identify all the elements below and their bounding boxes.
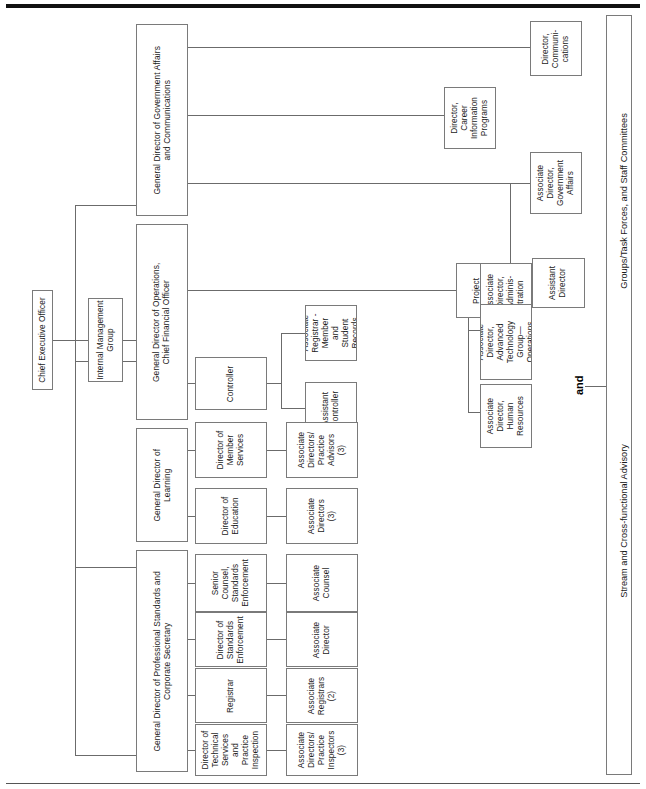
connector-education-to-assoc-directors <box>267 516 286 517</box>
box-associate-registrars-2[interactable]: Associate Registrars (2) <box>286 668 358 723</box>
box-label: General Director of Learning <box>152 449 173 522</box>
committee-connector-word: and <box>573 377 589 395</box>
connector-controller-to-assoc-registrar <box>281 333 305 334</box>
box-gd-learning[interactable]: General Director of Learning <box>136 428 188 542</box>
box-associate-registrar-member-student-records[interactable]: Associate Registrar - Member and Student… <box>305 305 357 361</box>
box-label: Associate Directors/ Practice Advisors (… <box>297 432 347 468</box>
connector-prof-standards-to-tech-services <box>188 750 195 751</box>
box-label: General Director of Government Affairs a… <box>152 46 173 194</box>
connector-senior-counsel-to-assoc-counsel <box>267 583 286 584</box>
connector-gov-affairs-to-communications <box>188 47 530 48</box>
box-label: General Director of Operations, Chief Fi… <box>152 262 173 381</box>
org-chart-page: Chief Executive Officer Internal Managem… <box>0 0 646 789</box>
box-gd-government-affairs[interactable]: General Director of Government Affairs a… <box>136 24 188 216</box>
connector-standards-enf-to-assoc-director <box>267 639 286 640</box>
connector-prof-standards-to-senior-counsel <box>188 583 195 584</box>
box-label: Associate Director, Government Affairs <box>536 160 576 206</box>
box-director-member-services[interactable]: Director of Member Services <box>195 422 267 478</box>
box-label: Senior Counsel, Standards Enforcement <box>211 559 251 607</box>
connector-spine-to-gd-gov-affairs <box>75 205 136 206</box>
box-chief-executive-officer[interactable]: Chief Executive Officer <box>32 290 53 390</box>
box-associate-director-advanced-technology-group-operations[interactable]: Associate Director, Advanced Technology … <box>480 304 532 380</box>
box-associate-directors-practice-advisors[interactable]: Associate Directors/ Practice Advisors (… <box>286 422 358 478</box>
box-label: Associate Directors/ Practice Inspectors… <box>297 731 347 770</box>
box-label: Registrar <box>226 678 236 712</box>
connector-prof-standards-to-standards-enf <box>188 639 195 640</box>
connector-project-director-to-assoc-hr <box>468 412 480 413</box>
box-label: Associate Counsel <box>312 565 332 601</box>
box-label: Director of Education <box>221 497 241 536</box>
box-label: Director, Career Information Programs <box>450 97 490 139</box>
connector-operations-to-controller <box>188 383 195 384</box>
box-director-standards-enforcement[interactable]: Director of Standards Enforcement <box>195 612 267 667</box>
box-label: Director of Technical Services and Pract… <box>201 731 261 770</box>
box-associate-directors-practice-inspectors[interactable]: Associate Directors/ Practice Inspectors… <box>286 724 358 776</box>
box-assistant-director[interactable]: Assistant Director <box>532 258 585 308</box>
box-label: Director, Communi- cations <box>541 29 571 68</box>
box-label: Associate Director, Human Resources <box>486 396 526 436</box>
connector-controller-bus <box>281 333 282 408</box>
connector-member-services-to-assoc-advisors <box>267 450 286 451</box>
committees-bar-left-label: Stream and Cross-functional Advisory <box>619 416 629 626</box>
box-label: Controller <box>226 365 236 402</box>
bottom-rule <box>6 783 640 784</box>
committees-bar-right-label: Groups/Task Forces, and Staff Committees <box>619 101 629 301</box>
connector-learning-to-member-services <box>188 450 195 451</box>
connector-controller-bus-stub <box>267 383 281 384</box>
box-internal-management-group[interactable]: Internal Management Group <box>88 298 123 382</box>
connector-project-director-to-assoc-atg <box>468 330 480 331</box>
box-associate-director-human-resources[interactable]: Associate Director, Human Resources <box>480 384 532 448</box>
box-label: Associate Director, Advanced Technology … <box>480 321 532 363</box>
box-associate-counsel[interactable]: Associate Counsel <box>286 554 358 612</box>
box-label: Internal Management Group <box>96 300 116 379</box>
connector-ceo-stub <box>53 340 75 341</box>
box-associate-directors-3[interactable]: Associate Directors (3) <box>286 488 358 544</box>
connector-controller-to-assistant-controller <box>281 408 305 409</box>
box-senior-counsel-standards-enforcement[interactable]: Senior Counsel, Standards Enforcement <box>195 554 267 612</box>
top-rule <box>6 4 640 8</box>
box-director-education[interactable]: Director of Education <box>195 488 267 544</box>
connector-spine-to-gd-learning <box>75 567 136 568</box>
connector-img-right <box>123 340 136 341</box>
connector-spine-to-gd-prof-standards <box>75 755 136 756</box>
box-associate-director-government-affairs[interactable]: Associate Director, Government Affairs <box>530 152 582 214</box>
box-label: Associate Director <box>312 621 332 657</box>
box-committees-bar[interactable]: Groups/Task Forces, and Staff Committees… <box>606 15 632 775</box>
connector-learning-to-education <box>188 516 195 517</box>
box-director-communications[interactable]: Director, Communi- cations <box>530 21 582 76</box>
box-label: Associate Registrar - Member and Student… <box>305 313 357 352</box>
box-label: Chief Executive Officer <box>38 297 48 382</box>
box-gd-operations[interactable]: General Director of Operations, Chief Fi… <box>136 224 188 420</box>
box-label: Director of Standards Enforcement <box>216 616 246 664</box>
connector-prof-standards-to-registrar <box>188 695 195 696</box>
box-label: Associate Registrars (2) <box>307 676 337 714</box>
box-label: Assistant Director <box>549 266 569 300</box>
connector-operations-to-project-director <box>188 290 456 291</box>
box-director-career-information-programs[interactable]: Director, Career Information Programs <box>444 87 496 149</box>
connector-gov-affairs-to-career-info <box>188 115 444 116</box>
box-controller[interactable]: Controller <box>195 357 267 410</box>
connector-registrar-to-assoc-registrars <box>267 695 286 696</box>
connector-tech-services-to-assoc-inspectors <box>267 750 286 751</box>
connector-img-left <box>75 340 88 341</box>
box-label: Associate Directors (3) <box>307 498 337 534</box>
box-label: Director of Member Services <box>216 431 246 470</box>
box-registrar[interactable]: Registrar <box>195 668 267 723</box>
box-label: General Director of Professional Standar… <box>152 571 173 752</box>
connector-gov-affairs-to-assoc-gov-affairs <box>188 183 530 184</box>
box-director-technical-services-practice-inspection[interactable]: Director of Technical Services and Pract… <box>195 724 267 776</box>
connector-spine-main <box>75 205 76 755</box>
box-associate-director[interactable]: Associate Director <box>286 612 358 667</box>
box-gd-professional-standards[interactable]: General Director of Professional Standar… <box>136 550 188 772</box>
